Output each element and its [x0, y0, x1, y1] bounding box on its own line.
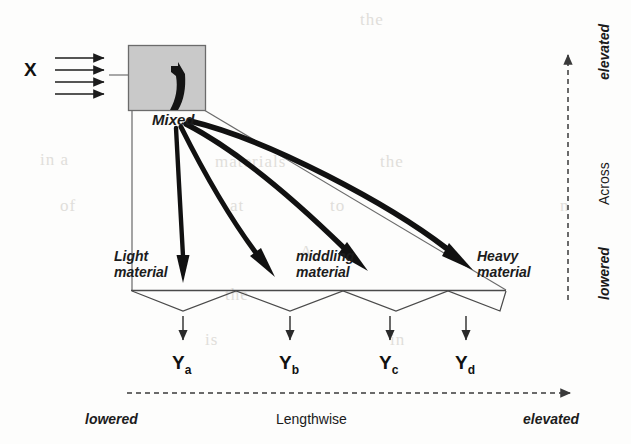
lengthwise-low-label: lowered	[85, 412, 138, 428]
light-material-line1: Light	[114, 249, 168, 265]
output-yb-base: Y	[279, 352, 292, 373]
light-material-line2: material	[114, 265, 168, 281]
lengthwise-high-label: elevated	[523, 412, 579, 428]
flow-arrow-a	[176, 128, 183, 256]
across-low-label: lowered	[596, 247, 612, 300]
middling-material-line2: material	[296, 265, 354, 281]
diagram-artwork	[0, 0, 631, 444]
flow-arrow-d	[190, 121, 446, 248]
output-ya-base: Y	[172, 352, 185, 373]
output-label-ya: Ya	[172, 352, 191, 377]
diagram-canvas: thein aofmaterialstheattoAtheisinn	[0, 0, 631, 444]
heavy-material-label: Heavy material	[477, 249, 531, 280]
feed-box	[129, 46, 206, 111]
middling-material-line1: middling	[296, 249, 354, 265]
output-label-yb: Yb	[279, 352, 299, 377]
across-axis-label: Across	[596, 162, 612, 205]
hopper-zigzag	[132, 291, 506, 311]
output-ya-sub: a	[185, 363, 192, 377]
output-yd-base: Y	[455, 352, 468, 373]
output-yc-base: Y	[379, 352, 392, 373]
output-yc-sub: c	[392, 363, 399, 377]
output-yb-sub: b	[292, 363, 299, 377]
mixed-label: Mixed	[152, 112, 195, 129]
hopper-group	[132, 291, 506, 311]
output-label-yd: Yd	[455, 352, 475, 377]
light-material-label: Light material	[114, 249, 168, 280]
middling-material-label: middling material	[296, 249, 354, 280]
heavy-material-line2: material	[477, 265, 531, 281]
output-label-yc: Yc	[379, 352, 398, 377]
across-high-label: elevated	[596, 24, 612, 80]
lengthwise-axis-label: Lengthwise	[276, 412, 347, 428]
feed-arrow-group	[55, 58, 104, 94]
heavy-material-line1: Heavy	[477, 249, 531, 265]
feed-label-x: X	[24, 59, 37, 81]
flow-arrowhead-a	[177, 255, 190, 283]
hopper-arrow-group	[183, 316, 466, 340]
output-yd-sub: d	[468, 363, 475, 377]
